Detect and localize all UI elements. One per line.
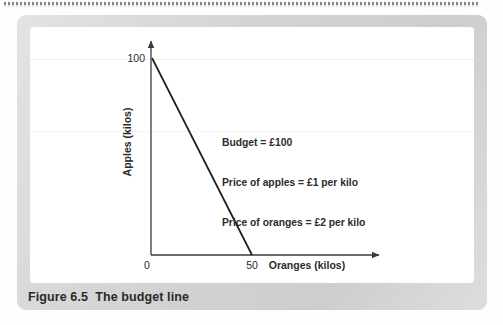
chart-annotation-block: Budget = £100 Price of apples = £1 per k… (222, 110, 365, 255)
y-tick-label-100: 100 (127, 52, 145, 64)
annotation-apple-price: Price of apples = £1 per kilo (222, 176, 365, 189)
annotation-orange-price: Price of oranges = £2 per kilo (222, 216, 365, 229)
x-tick-label-50: 50 (246, 259, 258, 271)
x-tick-label-0: 0 (144, 259, 150, 271)
annotation-budget: Budget = £100 (222, 136, 365, 149)
figure-caption-bar: Figure 6.5 The budget line (17, 283, 487, 310)
figure-caption-text: Figure 6.5 The budget line (28, 290, 189, 304)
x-axis-title: Oranges (kilos) (269, 259, 345, 271)
y-axis-title: Apples (kilos) (121, 108, 133, 177)
figure-page: 100 0 50 Oranges (kilos) Apples (kilos) … (0, 0, 503, 325)
